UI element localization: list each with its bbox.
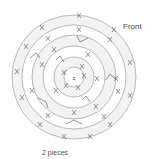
caption: 2 pieces — [42, 149, 68, 156]
front-label: Front — [123, 22, 142, 31]
center-label: c — [73, 75, 76, 81]
